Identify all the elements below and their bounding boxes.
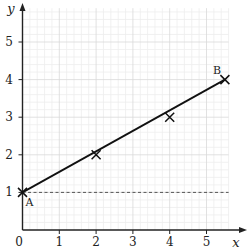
x-tick-label: 3 [129,235,137,249]
x-axis-label: x [232,235,240,250]
x-axis-arrow-icon [239,227,247,233]
x-tick-label: 5 [203,235,211,249]
x-tick-label: 1 [55,235,63,249]
x-tick-label: 2 [92,235,100,249]
origin-label: 0 [15,235,23,249]
y-axis-label: y [6,1,15,16]
y-axis-arrow-icon [20,3,26,11]
x-tick-label: 4 [166,235,174,249]
chart-canvas: 12345123450xy AB [0,0,249,251]
point-label-B: B [213,64,221,77]
line-AB [23,80,225,193]
tick-labels: 12345123450xy [5,1,240,250]
line-chart: 12345123450xy AB [0,0,249,251]
y-tick-label: 2 [5,148,13,162]
y-tick-label: 4 [5,73,13,87]
y-tick-label: 3 [5,110,13,124]
minor-grid [23,8,229,230]
point-label-A: A [25,196,35,209]
y-tick-label: 5 [5,35,13,49]
y-tick-label: 1 [5,185,13,199]
